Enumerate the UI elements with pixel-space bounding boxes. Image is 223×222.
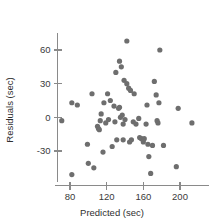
scatter-point [150,143,155,148]
scatter-point [148,171,153,176]
scatter-point [144,102,149,107]
scatter-point [89,91,94,96]
data-points-layer [59,38,194,177]
scatter-point [120,112,125,117]
y-tick-label: -30 [37,145,51,156]
scatter-point [119,64,124,69]
scatter-point [176,106,181,111]
scatter-point [69,100,74,105]
scatter-point [154,92,159,97]
scatter-point [112,119,117,124]
scatter-point [143,121,148,126]
y-tick-label: 30 [40,78,51,89]
scatter-point [129,137,134,142]
scatter-point [59,118,64,123]
scatter-point [157,47,162,52]
scatter-point [106,117,111,122]
scatter-point [121,137,126,142]
scatter-point [86,161,91,166]
y-axis: -3003060 [37,33,62,182]
scatter-point [75,102,80,107]
scatter-point [117,59,122,64]
x-axis: 80120160200 [55,182,209,202]
scatter-point [145,142,150,147]
scatter-point [122,117,127,122]
scatter-point [161,143,166,148]
scatter-point [156,100,161,105]
scatter-point [105,91,110,96]
scatter-point [136,116,141,121]
y-tick-label: 60 [40,44,51,55]
scatter-point [99,111,104,116]
scatter-point [155,120,160,125]
x-tick-label: 120 [99,191,115,202]
scatter-point [114,137,119,142]
x-tick-label: 80 [65,191,76,202]
scatter-point [142,136,147,141]
scatter-point [174,164,179,169]
x-axis-title: Predicted (sec) [80,207,144,218]
y-axis-title: Residuals (sec) [4,77,15,142]
scatter-point [101,100,106,105]
scatter-point [152,79,157,84]
y-tick-label: 0 [45,112,50,123]
scatter-point [108,98,113,103]
scatter-point [189,120,194,125]
scatter-point [91,165,96,170]
scatter-point [121,121,126,126]
scatter-point [117,105,122,110]
scatter-point [124,81,129,86]
scatter-point [113,70,118,75]
scatter-point [133,121,138,126]
scatter-point [85,142,90,147]
scatter-point [69,172,74,177]
scatter-point [100,150,105,155]
scatter-point [124,38,129,43]
x-tick-label: 200 [172,191,188,202]
scatter-point [146,154,151,159]
scatter-plot-canvas: -3003060 80120160200 Predicted (sec) Res… [0,0,223,222]
x-tick-label: 160 [135,191,151,202]
scatter-point [111,104,116,109]
scatter-point [98,118,103,123]
scatter-point [132,91,137,96]
residual-scatter-figure: -3003060 80120160200 Predicted (sec) Res… [0,0,223,222]
scatter-point [97,127,102,132]
scatter-point [110,144,115,149]
